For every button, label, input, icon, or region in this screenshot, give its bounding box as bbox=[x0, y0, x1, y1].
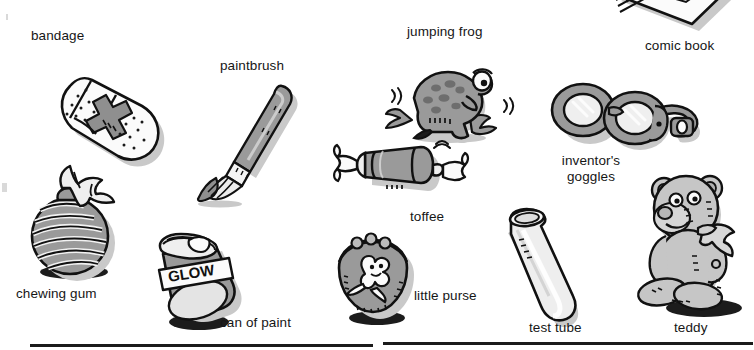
label-teddy: teddy bbox=[674, 320, 708, 335]
inventors-goggles-illustration bbox=[549, 82, 709, 158]
footer-rule-right bbox=[383, 342, 753, 345]
label-jumping-frog: jumping frog bbox=[407, 24, 483, 39]
label-chewing-gum: chewing gum bbox=[16, 286, 97, 301]
label-can-of-paint: can of paint bbox=[220, 315, 291, 330]
label-inventors-goggles-line1: inventor's bbox=[562, 153, 620, 168]
label-paintbrush: paintbrush bbox=[220, 58, 284, 73]
little-purse-illustration bbox=[321, 236, 431, 328]
scan-speck-mid-left bbox=[2, 183, 7, 192]
scan-speck-top-left bbox=[6, 14, 8, 20]
teddy-illustration bbox=[632, 172, 754, 322]
label-bandage: bandage bbox=[31, 28, 84, 43]
label-little-purse: little purse bbox=[414, 288, 477, 303]
label-toffee: toffee bbox=[410, 209, 444, 224]
chewing-gum-illustration bbox=[22, 162, 132, 282]
bandage-illustration bbox=[34, 52, 166, 164]
label-test-tube: test tube bbox=[529, 320, 582, 335]
label-inventors-goggles-line2: goggles bbox=[567, 169, 615, 184]
toffee-illustration bbox=[331, 135, 471, 215]
paintbrush-illustration bbox=[196, 78, 306, 208]
worksheet-canvas: bandage bbox=[0, 0, 754, 350]
footer-rule-left bbox=[30, 344, 373, 347]
jumping-frog-illustration bbox=[378, 52, 528, 147]
test-tube-illustration bbox=[497, 204, 601, 328]
label-comic-book: comic book bbox=[645, 38, 714, 53]
